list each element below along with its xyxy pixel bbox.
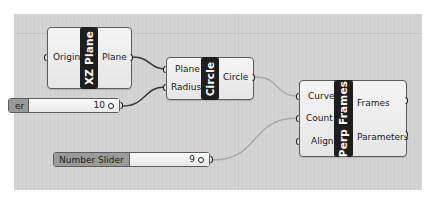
perp-frames-node[interactable]: Perp Frames Curve Count Align Frames Par… bbox=[299, 80, 407, 157]
node-title-strip: Perp Frames bbox=[334, 80, 353, 157]
circle-node[interactable]: Circle Plane Radius Circle bbox=[166, 57, 254, 100]
number-slider-radius[interactable]: er 10 bbox=[8, 98, 120, 113]
node-title: Perp Frames bbox=[338, 80, 350, 156]
node-title: Circle bbox=[204, 61, 216, 96]
node-title-strip: XZ Plane bbox=[80, 27, 98, 89]
xz-plane-node[interactable]: XZ Plane Origin Plane bbox=[47, 27, 132, 89]
output-frames-label: Frames bbox=[357, 98, 390, 108]
slider-knob-icon[interactable] bbox=[108, 103, 114, 109]
input-radius-label: Radius bbox=[171, 82, 201, 92]
output-parameters-label: Parameters bbox=[357, 132, 409, 142]
output-circle-label: Circle bbox=[223, 72, 248, 82]
slider-value: 9 bbox=[189, 154, 195, 164]
slider-track[interactable]: 10 bbox=[29, 99, 119, 112]
output-plane-label: Plane bbox=[102, 52, 127, 62]
input-count-label: Count bbox=[306, 113, 333, 123]
slider-knob-icon[interactable] bbox=[198, 157, 204, 163]
slider-label: Number Slider bbox=[54, 153, 130, 166]
input-origin-label: Origin bbox=[53, 52, 80, 62]
slider-value: 10 bbox=[94, 100, 105, 110]
grid-line bbox=[238, 14, 239, 190]
input-plane-label: Plane bbox=[175, 64, 200, 74]
input-curve-label: Curve bbox=[308, 91, 335, 101]
slider-track[interactable]: 9 bbox=[130, 153, 209, 166]
node-title-strip: Circle bbox=[201, 57, 219, 100]
slider-label: er bbox=[9, 99, 29, 112]
number-slider-count[interactable]: Number Slider 9 bbox=[53, 152, 210, 167]
node-title: XZ Plane bbox=[83, 31, 95, 85]
input-align-label: Align bbox=[311, 136, 334, 146]
